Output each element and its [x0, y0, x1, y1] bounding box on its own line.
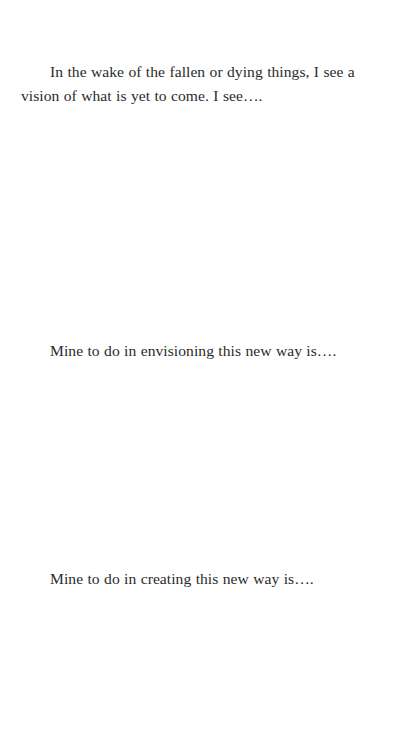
document-page: In the wake of the fallen or dying thing…: [0, 0, 410, 734]
prompt-creating: Mine to do in creating this new way is….: [50, 567, 314, 591]
prompt-envisioning: Mine to do in envisioning this new way i…: [50, 339, 336, 363]
intro-paragraph: In the wake of the fallen or dying thing…: [21, 60, 393, 108]
